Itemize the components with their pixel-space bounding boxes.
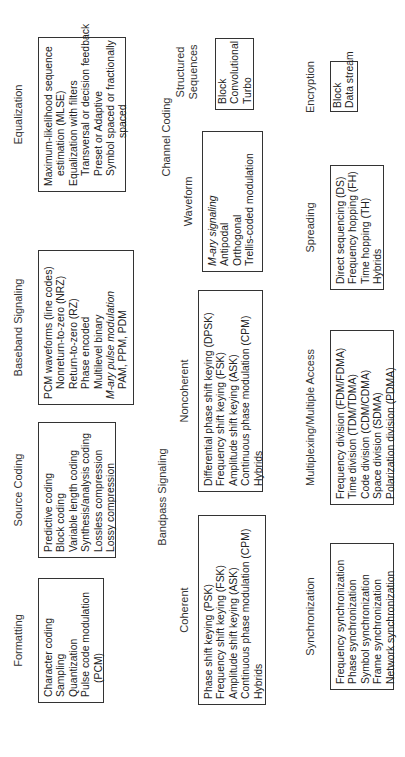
list-item: Hybrids: [253, 520, 265, 699]
list-item: spaced: [117, 42, 129, 186]
list-item: Continuous phase modulation (CPM): [240, 295, 252, 486]
list-item: Phase shift keying (PSK): [203, 520, 215, 699]
list-item: Code division (CDM/CDMA): [360, 335, 372, 499]
list-item: (PCM): [93, 583, 105, 697]
list-item: Antipodal: [219, 136, 231, 266]
list-item: Quantization: [68, 583, 80, 697]
list-item: Frequency shift keying (FSK): [215, 295, 227, 486]
list-item: Character coding: [43, 583, 55, 697]
waveform-box: M-ary signaling Antipodal Orthogonal Tre…: [202, 131, 263, 272]
formatting-title: Formatting: [12, 578, 25, 703]
list-item: Phase synchronization: [347, 548, 359, 684]
list-item: Orthogonal: [232, 136, 244, 266]
list-item: Frame synchronization: [372, 548, 384, 684]
structured-sequences-title: Structured Sequences: [174, 27, 200, 117]
list-item: estimation (MLSE): [55, 42, 67, 186]
encryption-title: Encryption: [304, 52, 317, 122]
coherent-box: Phase shift keying (PSK) Frequency shift…: [198, 515, 266, 705]
list-item: Return-to-zero (RZ): [68, 255, 80, 399]
list-item: Hybrids: [372, 170, 384, 284]
list-item: Convolutional: [229, 43, 241, 104]
list-item: Trellis-coded modulation: [244, 136, 256, 266]
encryption-box: Block Data stream: [330, 61, 358, 112]
list-item: Equalization with filters: [68, 42, 80, 186]
list-item: Preset or Adaptive: [93, 42, 105, 186]
list-item: Block: [217, 43, 229, 104]
list-item: Turbo: [242, 43, 254, 104]
list-item: Frequency division (FDM/FDMA): [335, 335, 347, 499]
list-item: Phase encoded: [80, 255, 92, 399]
baseband-signaling-box: PCM waveforms (line codes) Nonreturn-to-…: [38, 250, 134, 405]
list-item: Frequency shift keying (FSK): [215, 520, 227, 699]
list-item: Variable length coding: [68, 427, 80, 552]
spreading-title: Spreading: [304, 165, 317, 290]
list-item: Symbol synchronization: [360, 548, 372, 684]
equalization-box: Maximum-likelihood sequence estimation (…: [38, 37, 126, 192]
list-item: Synthesis/analysis coding: [80, 427, 92, 552]
list-item: Predictive coding: [43, 427, 55, 552]
sequences-title-line: Sequences: [187, 27, 200, 117]
list-item: Symbol spaced or fractionally: [105, 42, 117, 186]
list-item: Direct sequencing (DS): [335, 170, 347, 284]
spreading-box: Direct sequencing (DS) Frequency hopping…: [330, 165, 384, 290]
list-item: Frequency synchronization: [335, 548, 347, 684]
list-item: Amplitude shift keying (ASK): [228, 520, 240, 699]
list-item: Lossless compression: [93, 427, 105, 552]
baseband-signaling-title: Baseband Signaling: [12, 250, 25, 405]
list-item: Sampling: [55, 583, 67, 697]
list-item: Frequency hopping (FH): [347, 170, 359, 284]
channel-coding-title: Channel Coding: [160, 77, 173, 197]
source-coding-title: Source Coding: [12, 422, 25, 558]
list-item: Nonreturn-to-zero (NRZ): [55, 255, 67, 399]
list-item: Data stream: [344, 66, 356, 108]
list-item: Continuous phase modulation (CPM): [240, 520, 252, 699]
source-coding-box: Predictive coding Block coding Variable …: [38, 422, 116, 558]
list-item: Polarization division (PDMA): [385, 335, 397, 499]
structured-title-line: Structured: [174, 27, 187, 117]
multiplexing-title: Multiplexing/Multiple Access: [304, 330, 317, 505]
noncoherent-title: Noncoherent: [178, 290, 191, 492]
synchronization-box: Frequency synchronization Phase synchron…: [330, 543, 394, 690]
coherent-title: Coherent: [178, 515, 191, 705]
list-item: PCM waveforms (line codes): [43, 255, 55, 399]
list-item: M-ary pulse modulation: [105, 255, 117, 399]
equalization-title: Equalization: [12, 37, 25, 192]
list-item: Differential phase shift keying (DPSK): [203, 295, 215, 486]
list-item: Amplitude shift keying (ASK): [228, 295, 240, 486]
list-item: Time hopping (TH): [360, 170, 372, 284]
waveform-title: Waveform: [182, 131, 195, 272]
list-item: PAM, PPM, PDM: [117, 255, 129, 399]
list-item: Block: [332, 66, 344, 108]
list-item: Maximum-likelihood sequence: [43, 42, 55, 186]
list-item: Time division (TDM/TDMA): [347, 335, 359, 499]
list-item: M-ary signaling: [207, 136, 219, 266]
list-item: Hybrids: [253, 295, 265, 486]
noncoherent-box: Differential phase shift keying (DPSK) F…: [198, 290, 263, 492]
diagram-canvas: Formatting Character coding Sampling Qua…: [0, 0, 405, 757]
structured-sequences-box: Block Convolutional Turbo: [215, 38, 254, 110]
list-item: Transversal or decision feedback: [80, 42, 92, 186]
list-item: Multilevel binary: [93, 255, 105, 399]
list-item: Space division (SDMA): [372, 335, 384, 499]
list-item: Pulse code modulation: [80, 583, 92, 697]
multiplexing-box: Frequency division (FDM/FDMA) Time divis…: [330, 330, 394, 505]
bandpass-signaling-title: Bandpass Signaling: [156, 377, 169, 617]
list-item: Block coding: [55, 427, 67, 552]
synchronization-title: Synchronization: [304, 543, 317, 690]
formatting-box: Character coding Sampling Quantization P…: [38, 578, 104, 703]
list-item: Lossy compression: [105, 427, 117, 552]
list-item: Network synchronization: [385, 548, 397, 684]
